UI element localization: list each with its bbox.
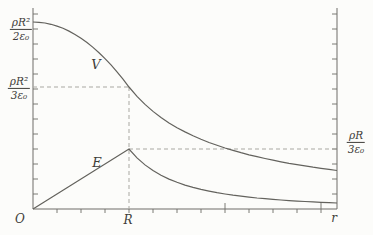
axis-ticks <box>33 14 337 213</box>
v-curve <box>33 22 337 171</box>
fraction-numerator: ρR <box>347 129 365 143</box>
e-curve-label: E <box>92 155 102 170</box>
fraction-numerator: ρR² <box>8 75 30 89</box>
y-axis-label-rhoR2-over-3eps0: ρR² 3ε₀ <box>8 75 30 101</box>
fraction-denominator: 2ε₀ <box>11 30 32 43</box>
origin-label: O <box>15 212 25 226</box>
x-tick-label-R: R <box>123 213 132 227</box>
charged-sphere-V-E-diagram: ρR² 2ε₀ ρR² 3ε₀ ρR 3ε₀ V E O R r <box>0 0 373 235</box>
fraction-denominator: 3ε₀ <box>346 143 367 156</box>
fraction-denominator: 3ε₀ <box>9 89 30 102</box>
x-axis-label-r: r <box>331 211 337 225</box>
plot-canvas <box>0 0 373 235</box>
v-curve-label: V <box>91 57 100 72</box>
fraction-numerator: ρR² <box>10 16 32 30</box>
e-curve <box>33 149 337 209</box>
right-axis-label-rhoR-over-3eps0: ρR 3ε₀ <box>346 129 367 155</box>
y-axis-label-rhoR2-over-2eps0: ρR² 2ε₀ <box>10 16 32 42</box>
